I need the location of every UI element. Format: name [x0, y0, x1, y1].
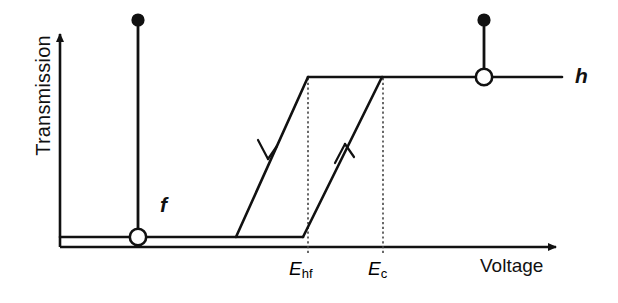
curve-ascending-branch — [303, 77, 382, 237]
marker-h-state — [476, 13, 492, 85]
tick-symbol-ec: E — [368, 258, 381, 279]
filled-dot-f-icon — [131, 13, 144, 26]
branch-label-f: f — [160, 193, 167, 217]
open-circle-h-icon — [476, 69, 492, 85]
y-axis-label: Transmission — [32, 1, 55, 191]
filled-dot-h-icon — [477, 13, 490, 26]
tick-subscript-ehf: hf — [302, 266, 313, 281]
hysteresis-figure: Transmission Voltage f h Ehf Ec — [0, 0, 618, 303]
x-axis-label: Voltage — [480, 255, 543, 277]
marker-f-state — [130, 13, 146, 245]
curve-descending-branch — [236, 77, 308, 237]
x-tick-label-ehf: Ehf — [289, 258, 313, 281]
x-tick-label-ec: Ec — [368, 258, 387, 281]
open-circle-f-icon — [130, 229, 146, 245]
branch-label-h: h — [575, 64, 588, 88]
tick-symbol-ehf: E — [289, 258, 302, 279]
tick-subscript-ec: c — [381, 266, 388, 281]
arrow-down-icon — [258, 140, 277, 159]
